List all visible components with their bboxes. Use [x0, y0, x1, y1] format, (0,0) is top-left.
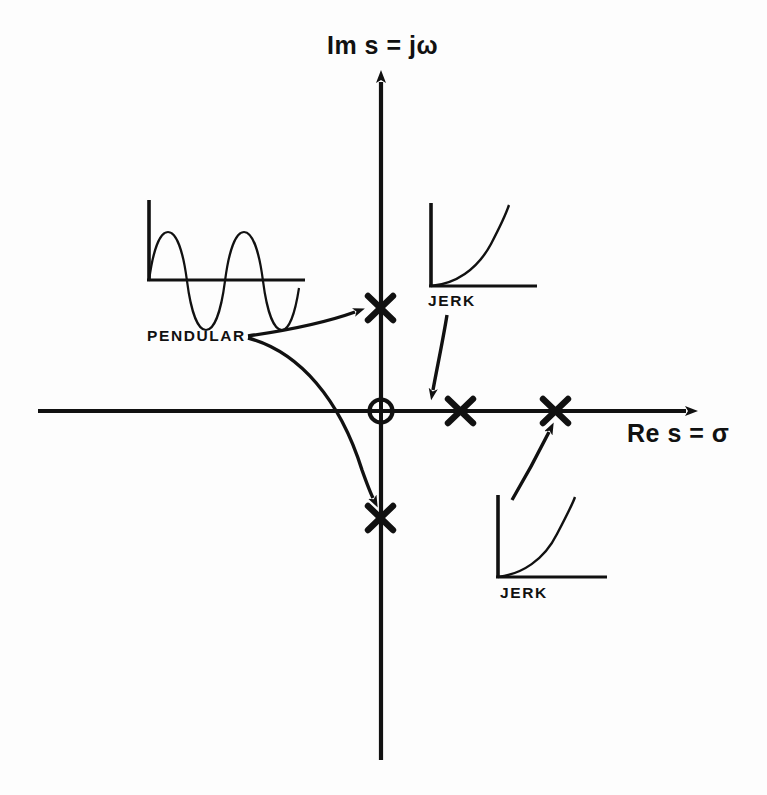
- inset-jerk-lower-exponential-curve: [498, 497, 575, 577]
- arrow-pendular-to-upper-pole: [248, 312, 355, 336]
- inset-jerk-upper-label: JERK: [428, 292, 476, 310]
- s-plane-diagram: [0, 0, 767, 795]
- arrow-jerk-lower-to-pole: [512, 432, 549, 500]
- real-axis-label: Re s = σ: [627, 419, 729, 448]
- figure-canvas: Im s = jω Re s = σ PENDULAR JERK JERK: [0, 0, 767, 795]
- arrow-jerk-upper-to-pole: [433, 315, 447, 390]
- imaginary-axis-label: Im s = jω: [327, 31, 438, 60]
- inset-jerk-upper: [429, 203, 537, 287]
- annotation-arrows: [248, 312, 549, 500]
- axis-group: [38, 82, 686, 760]
- origin-marker: [370, 400, 393, 423]
- inset-pendular: [147, 200, 305, 330]
- inset-jerk-lower: [496, 495, 607, 578]
- inset-jerk-upper-exponential-curve: [431, 205, 509, 286]
- arrow-pendular-to-lower-pole: [248, 338, 373, 498]
- inset-jerk-lower-label: JERK: [500, 584, 548, 602]
- inset-pendular-label: PENDULAR: [147, 327, 246, 345]
